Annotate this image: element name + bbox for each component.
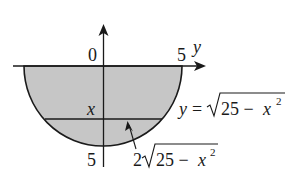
svg-text:x: x bbox=[197, 150, 206, 170]
svg-text:2: 2 bbox=[133, 150, 142, 170]
strip-depth-label: x bbox=[86, 99, 95, 119]
svg-text:25 −: 25 − bbox=[221, 99, 254, 119]
svg-text:y: y bbox=[177, 99, 187, 119]
svg-text:25 −: 25 − bbox=[156, 150, 189, 170]
svg-text:=: = bbox=[192, 99, 202, 119]
svg-text:2: 2 bbox=[276, 95, 282, 107]
svg-text:2: 2 bbox=[210, 146, 216, 158]
horizontal-tick-label: 5 bbox=[177, 45, 186, 65]
vertical-tick-label: 5 bbox=[87, 150, 96, 170]
svg-text:x: x bbox=[262, 99, 271, 119]
diagram-canvas: 0 5 y x 5 y = 25 − x 2 2 25 − x 2 bbox=[0, 0, 285, 178]
horizontal-axis-label: y bbox=[191, 37, 201, 57]
strip-width-label: 2 25 − x 2 bbox=[133, 144, 218, 170]
curve-equation: y = 25 − x 2 bbox=[177, 93, 285, 119]
origin-label: 0 bbox=[88, 45, 97, 65]
